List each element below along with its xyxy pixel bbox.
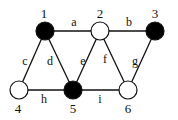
node-2 [91,22,109,40]
edge-label-b: b [126,15,132,29]
edge-label-c: c [22,54,27,68]
edge-label-a: a [71,15,77,29]
edge-label-f: f [103,52,107,66]
edge-label-d: d [47,54,53,68]
edge-e [73,31,100,90]
node-6 [119,81,137,99]
edge-label-i: i [98,92,102,106]
node-label-1: 1 [41,6,48,21]
node-4 [10,81,28,99]
edge-label-g: g [132,54,138,68]
edge-label-h: h [41,92,47,106]
node-label-6: 6 [125,101,132,116]
node-3 [146,22,164,40]
node-label-2: 2 [97,6,104,21]
node-5 [64,81,82,99]
node-1 [36,22,54,40]
graph-diagram: abcdefghi123456 [0,0,178,120]
node-label-3: 3 [152,6,159,21]
edge-label-e: e [80,54,85,68]
node-label-4: 4 [15,101,22,116]
node-label-5: 5 [70,101,77,116]
